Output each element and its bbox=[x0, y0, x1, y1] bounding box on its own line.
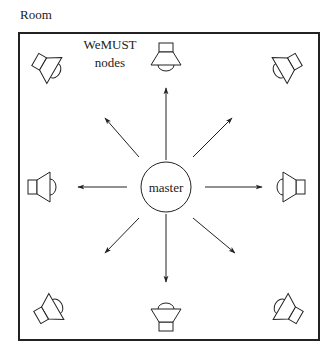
speaker-icon bbox=[151, 43, 181, 71]
arrow-down-right bbox=[193, 218, 235, 253]
master-label: master bbox=[149, 180, 184, 195]
speaker-icon bbox=[28, 47, 67, 87]
arrow-up-right bbox=[193, 118, 232, 157]
speaker-icon bbox=[151, 303, 181, 331]
arrow-up-left bbox=[105, 118, 139, 157]
speaker-icon bbox=[28, 172, 56, 202]
caption-partial bbox=[0, 350, 331, 358]
speaker-icon bbox=[268, 291, 307, 331]
nodes-label-line1: WeMUST bbox=[83, 37, 136, 52]
speaker-icon bbox=[30, 291, 69, 331]
arrow-down-left bbox=[105, 218, 139, 253]
speaker-icon bbox=[277, 172, 305, 202]
speaker-icon bbox=[267, 47, 306, 87]
nodes-label-line2: nodes bbox=[95, 55, 125, 70]
room-diagram: Room WeMUST nodes master bbox=[0, 0, 331, 358]
room-label: Room bbox=[20, 7, 52, 22]
